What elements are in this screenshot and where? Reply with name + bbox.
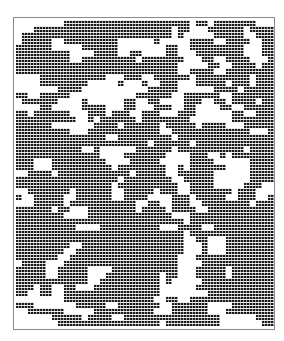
grid-cell bbox=[268, 320, 274, 326]
occupancy-grid bbox=[16, 20, 274, 329]
map-frame bbox=[13, 17, 275, 330]
